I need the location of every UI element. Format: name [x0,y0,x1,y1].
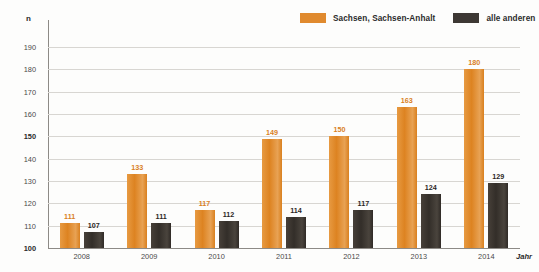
bar[interactable]: 114 [286,217,306,248]
bar-value-label: 129 [492,172,504,181]
x-axis-tick-labels: 2008200920102011201220132014 [48,250,520,266]
bar-group: 133111 [127,36,171,248]
bar[interactable]: 149 [262,139,282,248]
bar-value-label: 112 [223,210,235,219]
bar[interactable]: 117 [195,210,215,248]
bar[interactable]: 117 [353,210,373,248]
y-axis-tick: 170 [24,87,36,96]
bar-value-label: 117 [199,199,211,208]
y-axis-tick: 100 [24,244,36,253]
bar-group: 117112 [195,36,239,248]
y-axis-tick: 180 [24,65,36,74]
legend-entry[interactable]: Sachsen, Sachsen-Anhalt [300,13,435,23]
bar-group: 150117 [329,36,373,248]
bar[interactable]: 111 [151,223,171,248]
bar-group: 163124 [397,36,441,248]
bar[interactable]: 112 [219,221,239,248]
legend-label: Sachsen, Sachsen-Anhalt [333,14,435,23]
y-axis-tick: 160 [24,110,36,119]
bar[interactable]: 133 [127,174,147,248]
plot-area: 1111071331111171121491141501171631241801… [48,36,520,248]
x-axis-tick: 2008 [73,252,89,261]
bar-value-label: 107 [88,221,100,230]
bar-value-label: 111 [64,212,75,221]
bar-group: 111107 [60,36,104,248]
bar-value-label: 133 [131,163,143,172]
bar-chart: Sachsen, Sachsen-Anhaltalle anderen n 10… [0,0,539,272]
bar-group: 149114 [262,36,306,248]
bar-value-label: 180 [468,58,480,67]
legend-swatch-icon [300,13,326,23]
x-axis-tick: 2010 [208,252,224,261]
bar[interactable]: 111 [60,223,80,248]
y-axis-tick: 190 [24,43,36,52]
bar-value-label: 111 [156,212,167,221]
bar-groups: 1111071331111171121491141501171631241801… [48,36,520,248]
bar[interactable]: 163 [397,107,417,248]
bar-value-label: 124 [425,183,437,192]
gridline [48,248,520,249]
bar-value-label: 149 [266,128,278,137]
y-axis-tick: 130 [24,177,36,186]
chart-legend: Sachsen, Sachsen-Anhaltalle anderen [300,11,535,25]
bar-value-label: 117 [358,199,370,208]
x-axis-tick: 2011 [276,252,292,261]
legend-swatch-icon [453,13,479,23]
bar-value-label: 114 [290,206,302,215]
bar[interactable]: 124 [421,194,441,248]
x-axis-tick: 2014 [478,252,494,261]
bar[interactable]: 150 [329,136,349,248]
x-axis-tick: 2012 [343,252,359,261]
y-axis-tick-labels: 100110120130140150160170180190 [0,0,44,272]
bar-value-label: 163 [401,96,413,105]
x-axis-tick: 2013 [411,252,427,261]
bar[interactable]: 129 [488,183,508,248]
bar[interactable]: 180 [464,69,484,248]
bar-value-label: 150 [333,125,345,134]
legend-entry[interactable]: alle anderen [453,13,535,23]
y-axis-tick: 150 [24,132,36,141]
y-axis-tick: 120 [24,199,36,208]
legend-label: alle anderen [486,14,535,23]
bar[interactable]: 107 [84,232,104,248]
x-axis-tick: 2009 [141,252,157,261]
bar-group: 180129 [464,36,508,248]
y-axis-tick: 140 [24,154,36,163]
y-axis-tick: 110 [24,221,36,230]
x-axis-title: Jahr [516,252,532,261]
